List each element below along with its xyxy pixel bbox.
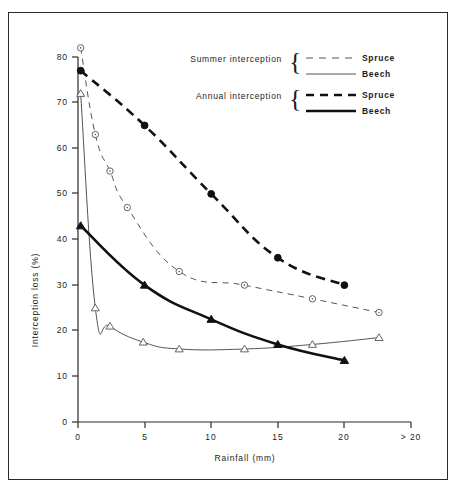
data-point-marker — [91, 304, 99, 311]
y-tick-label-80: 80 — [57, 52, 68, 62]
series-line — [81, 48, 379, 313]
y-tick-label-20: 20 — [57, 325, 68, 335]
legend-group-label-summer: Summer interception — [190, 54, 282, 64]
y-tick-label-50: 50 — [57, 188, 68, 198]
marker-center-dot — [378, 312, 380, 314]
series-4 — [81, 226, 345, 361]
legend-label-summer-spruce: Spruce — [362, 53, 395, 63]
figure-root: 80 70 60 50 40 30 20 10 0 Interception l… — [0, 0, 459, 494]
x-tick-label-15: 15 — [272, 432, 283, 442]
data-point-marker — [77, 67, 84, 74]
legend-label-annual-beech: Beech — [362, 106, 391, 116]
x-tick-label-10: 10 — [205, 432, 216, 442]
marker-center-dot — [244, 284, 246, 286]
legend-brace-annual: { — [289, 84, 301, 113]
series-1 — [81, 48, 379, 313]
series-line — [81, 94, 379, 350]
legend-brace-summer: { — [289, 47, 301, 76]
data-point-marker — [274, 254, 281, 261]
data-point-marker — [141, 122, 148, 129]
x-tick-label-20: 20 — [338, 432, 349, 442]
y-tick-label-60: 60 — [57, 143, 68, 153]
x-axis: 0 5 10 15 20 > 20 Rainfall (mm) — [75, 422, 421, 463]
y-tick-label-10: 10 — [57, 371, 68, 381]
y-tick-label-40: 40 — [57, 234, 68, 244]
data-point-marker — [341, 282, 348, 289]
x-tick-label-0: 0 — [75, 432, 81, 442]
marker-center-dot — [109, 170, 111, 172]
marker-center-dot — [312, 298, 314, 300]
x-axis-title: Rainfall (mm) — [215, 453, 276, 463]
y-tick-label-0: 0 — [62, 417, 68, 427]
interception-loss-line-chart: 80 70 60 50 40 30 20 10 0 Interception l… — [0, 0, 459, 494]
marker-center-dot — [178, 271, 180, 273]
x-tick-label-5: 5 — [142, 432, 148, 442]
y-tick-label-70: 70 — [57, 97, 68, 107]
data-point-marker — [208, 190, 215, 197]
y-tick-label-30: 30 — [57, 280, 68, 290]
legend-group-label-annual: Annual interception — [196, 91, 282, 101]
series-2 — [81, 94, 379, 350]
chart-legend: Summer interception { Spruce Beech Annua… — [190, 47, 395, 116]
legend-label-annual-spruce: Spruce — [362, 90, 395, 100]
x-tick-label-gt20: > 20 — [401, 432, 421, 442]
series-line — [81, 71, 345, 285]
y-axis: 80 70 60 50 40 30 20 10 0 Interception l… — [30, 52, 78, 427]
legend-label-summer-beech: Beech — [362, 69, 391, 79]
series-line — [81, 226, 345, 361]
marker-center-dot — [95, 134, 97, 136]
data-point-marker — [375, 334, 383, 341]
marker-center-dot — [80, 47, 82, 49]
series-3 — [81, 71, 345, 285]
marker-center-dot — [126, 207, 128, 209]
y-axis-title: Interception loss (%) — [30, 253, 40, 347]
